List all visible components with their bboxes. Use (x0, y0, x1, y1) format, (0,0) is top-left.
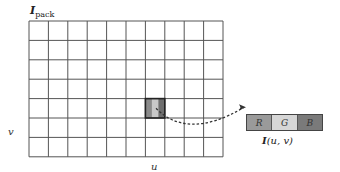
channel-b: B (297, 115, 322, 130)
channel-r: R (247, 115, 271, 130)
dashed-arrow (156, 107, 244, 124)
pixel-label: I(u, v) (262, 135, 293, 146)
arrowhead-icon (239, 104, 246, 110)
channel-g: G (271, 115, 296, 130)
u-axis-label: u (151, 161, 157, 172)
rgb-pixel-box: R G B (246, 114, 323, 131)
highlighted-pixel-stripe (152, 99, 159, 118)
highlighted-pixel-stripe (145, 99, 152, 118)
v-axis-label: v (8, 126, 14, 137)
pixel-grid (0, 0, 340, 172)
